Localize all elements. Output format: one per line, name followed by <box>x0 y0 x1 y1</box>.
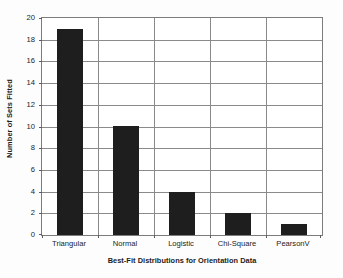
y-axis-title: Number of Sets Fitted <box>0 0 18 236</box>
bar <box>281 224 307 235</box>
gridline-vertical <box>210 18 211 235</box>
bar <box>113 126 139 235</box>
y-axis-tick-label: 6 <box>31 164 35 173</box>
gridline-horizontal <box>42 40 322 41</box>
x-axis-tick-mark <box>154 235 155 238</box>
y-axis-tick-mark <box>39 213 42 214</box>
x-axis-tick-label: PearsonV <box>265 239 321 248</box>
bar <box>169 192 195 235</box>
y-axis-tick-label: 2 <box>31 208 35 217</box>
y-axis-tick-mark <box>39 192 42 193</box>
y-axis-tick-labels: 02468101214161820 <box>18 12 38 237</box>
plot-area <box>41 17 323 236</box>
x-axis-tick-label: Chi-Square <box>209 239 265 248</box>
x-axis-tick-mark <box>42 235 43 238</box>
x-axis-title: Best-Fit Distributions for Orientation D… <box>41 256 323 265</box>
x-axis-tick-mark <box>210 235 211 238</box>
y-axis-tick-mark <box>39 18 42 19</box>
gridline-vertical <box>154 18 155 235</box>
y-axis-tick-mark <box>39 148 42 149</box>
bar <box>225 213 251 235</box>
gridline-vertical <box>98 18 99 235</box>
gridline-horizontal <box>42 148 322 149</box>
y-axis-tick-mark <box>39 127 42 128</box>
y-axis-tick-label: 14 <box>27 78 35 87</box>
y-axis-tick-mark <box>39 83 42 84</box>
gridline-horizontal <box>42 83 322 84</box>
y-axis-tick-label: 4 <box>31 186 35 195</box>
y-axis-tick-mark <box>39 105 42 106</box>
bar-chart: Number of Sets Fitted 02468101214161820 … <box>0 0 343 278</box>
y-axis-tick-label: 20 <box>27 13 35 22</box>
x-axis-tick-label: Triangular <box>41 239 97 248</box>
gridline-horizontal <box>42 127 322 128</box>
gridline-horizontal <box>42 105 322 106</box>
gridline-horizontal <box>42 170 322 171</box>
y-axis-tick-label: 10 <box>27 121 35 130</box>
y-axis-title-label: Number of Sets Fitted <box>5 79 14 158</box>
gridline-vertical <box>266 18 267 235</box>
y-axis-tick-label: 16 <box>27 56 35 65</box>
y-axis-tick-mark <box>39 170 42 171</box>
x-axis-tick-labels: TriangularNormalLogisticChi-SquarePearso… <box>41 239 323 253</box>
y-axis-tick-mark <box>39 40 42 41</box>
x-axis-tick-mark <box>266 235 267 238</box>
bar <box>57 29 83 235</box>
x-axis-tick-label: Normal <box>97 239 153 248</box>
x-axis-tick-mark <box>320 235 321 238</box>
y-axis-tick-label: 8 <box>31 143 35 152</box>
gridline-horizontal <box>42 61 322 62</box>
x-axis-tick-mark <box>98 235 99 238</box>
y-axis-tick-mark <box>39 61 42 62</box>
y-axis-tick-label: 18 <box>27 34 35 43</box>
y-axis-tick-label: 12 <box>27 99 35 108</box>
y-axis-tick-label: 0 <box>31 230 35 239</box>
x-axis-tick-label: Logistic <box>153 239 209 248</box>
